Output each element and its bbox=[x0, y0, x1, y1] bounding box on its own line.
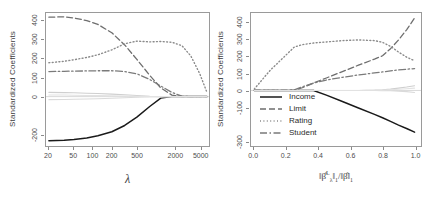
x-tick-mark bbox=[253, 147, 254, 150]
y-tick-label: 200 bbox=[27, 48, 41, 68]
x-tick-mark bbox=[351, 147, 352, 150]
y-tick-label: 0 bbox=[27, 87, 41, 107]
x-tick-mark bbox=[73, 147, 74, 150]
x-tick-mark bbox=[92, 147, 93, 150]
y-tick-label: -300 bbox=[232, 132, 246, 152]
x-tick-mark bbox=[175, 147, 176, 150]
legend-line-swatch bbox=[259, 116, 283, 126]
y-tick-label: 300 bbox=[27, 29, 41, 49]
legend-label: Income bbox=[289, 92, 315, 102]
y-tick-mark bbox=[41, 20, 44, 21]
y-tick-mark bbox=[246, 56, 249, 57]
x-tick-label: 0.8 bbox=[369, 152, 397, 159]
norm-ratio-panel: Standardized Coefficients Income Limit R… bbox=[216, 0, 432, 199]
x-tick-label: 500 bbox=[123, 152, 151, 159]
y-axis-title-right: Standardized Coefficients bbox=[216, 18, 225, 140]
y-tick-label: -100 bbox=[232, 98, 246, 118]
coefficient-paths-left bbox=[46, 13, 209, 146]
x-tick-label: 0.2 bbox=[272, 152, 300, 159]
lasso-coefficient-paths-figure: Standardized Coefficients 4003002001000-… bbox=[0, 0, 432, 199]
y-tick-mark bbox=[246, 22, 249, 23]
legend-item-limit: Limit bbox=[259, 103, 317, 115]
y-tick-mark bbox=[41, 58, 44, 59]
y-tick-label: 100 bbox=[27, 68, 41, 88]
y-tick-label: 400 bbox=[27, 10, 41, 30]
legend-label: Student bbox=[289, 128, 317, 138]
legend-item-income: Income bbox=[259, 91, 317, 103]
y-tick-mark bbox=[246, 142, 249, 143]
x-tick-mark bbox=[286, 147, 287, 150]
x-tick-mark bbox=[318, 147, 319, 150]
x-tick-label: 0.0 bbox=[239, 152, 267, 159]
x-tick-mark bbox=[416, 147, 417, 150]
y-tick-mark bbox=[41, 135, 44, 136]
lambda-panel: Standardized Coefficients 4003002001000-… bbox=[0, 0, 216, 199]
x-tick-label: 200 bbox=[98, 152, 126, 159]
y-axis-title-left: Standardized Coefficients bbox=[8, 18, 17, 140]
y-tick-mark bbox=[246, 108, 249, 109]
x-tick-label: 0.6 bbox=[337, 152, 365, 159]
plot-area-left bbox=[46, 13, 209, 146]
legend-line-swatch bbox=[259, 128, 283, 138]
x-tick-mark bbox=[112, 147, 113, 150]
x-tick-mark bbox=[383, 147, 384, 150]
x-tick-mark bbox=[48, 147, 49, 150]
legend-item-rating: Rating bbox=[259, 115, 317, 127]
y-tick-label: -200 bbox=[27, 125, 41, 145]
x-tick-label: 2000 bbox=[161, 152, 189, 159]
y-tick-mark bbox=[41, 78, 44, 79]
x-tick-label: 20 bbox=[34, 152, 62, 159]
x-axis-title-left: λ bbox=[45, 172, 210, 187]
legend: Income Limit Rating Student bbox=[259, 91, 317, 139]
legend-label: Rating bbox=[289, 116, 312, 126]
x-tick-mark bbox=[137, 147, 138, 150]
x-axis-title-right: ‖β̂Lλ‖1/‖β̂‖1 bbox=[250, 170, 422, 183]
y-tick-mark bbox=[41, 39, 44, 40]
plot-frame-right: Income Limit Rating Student bbox=[250, 12, 422, 147]
legend-line-swatch bbox=[259, 92, 283, 102]
y-tick-mark bbox=[41, 97, 44, 98]
x-tick-label: 1.0 bbox=[402, 152, 430, 159]
y-tick-mark bbox=[246, 91, 249, 92]
y-tick-mark bbox=[246, 74, 249, 75]
x-tick-mark bbox=[201, 147, 202, 150]
x-tick-label: 5000 bbox=[187, 152, 215, 159]
legend-line-swatch bbox=[259, 104, 283, 114]
legend-label: Limit bbox=[289, 104, 306, 114]
x-tick-label: 0.4 bbox=[304, 152, 332, 159]
legend-item-student: Student bbox=[259, 127, 317, 139]
plot-frame-left bbox=[45, 12, 210, 147]
y-tick-mark bbox=[246, 39, 249, 40]
